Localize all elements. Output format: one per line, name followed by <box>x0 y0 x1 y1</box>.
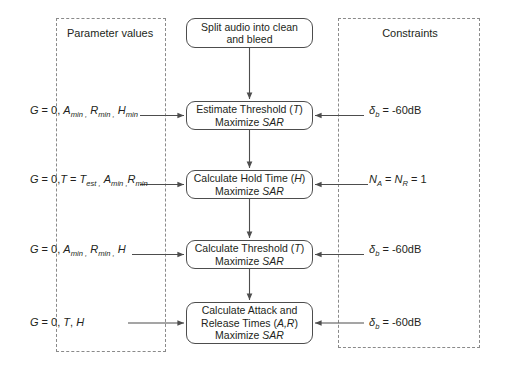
box-line: Maximize SAR <box>215 329 284 342</box>
process-box-calculate-threshold[interactable]: Calculate Threshold (T) Maximize SAR <box>186 240 313 269</box>
diagram-canvas: Parameter values Constraints Split audio… <box>0 0 506 369</box>
box-line: Calculate Attack and <box>202 304 298 317</box>
constraint-4: δb = -60dB <box>369 316 421 328</box>
parameter-value-4: G = 0, T, H <box>30 316 84 328</box>
box-line: Estimate Threshold (T) <box>196 103 303 116</box>
box-line: Calculate Threshold (T) <box>195 242 305 255</box>
box-line: Maximize SAR <box>215 255 284 268</box>
constraint-1: δb = -60dB <box>369 104 421 116</box>
constraint-2: NA = NR = 1 <box>369 173 427 185</box>
constraint-3: δb = -60dB <box>369 243 421 255</box>
process-box-estimate-threshold[interactable]: Estimate Threshold (T) Maximize SAR <box>186 101 313 130</box>
box-line: Maximize SAR <box>215 116 284 129</box>
box-line: Calculate Hold Time (H) <box>194 172 305 185</box>
process-box-calculate-hold-time[interactable]: Calculate Hold Time (H) Maximize SAR <box>186 170 313 199</box>
process-box-calculate-attack-release[interactable]: Calculate Attack and Release Times (A,R)… <box>186 302 313 344</box>
process-box-split-audio[interactable]: Split audio into clean and bleed <box>186 18 313 48</box>
box-line: Split audio into clean <box>201 21 298 34</box>
parameter-value-2: G = 0,T = Test , Amin ,Rmin <box>30 173 148 185</box>
box-line: Maximize SAR <box>215 185 284 198</box>
parameter-value-1: G = 0, Amin , Rmin , Hmin <box>30 104 138 116</box>
box-line: and bleed <box>226 33 272 46</box>
box-line: Release Times (A,R) <box>201 317 298 330</box>
parameter-value-3: G = 0, Amin , Rmin , H <box>30 243 126 255</box>
